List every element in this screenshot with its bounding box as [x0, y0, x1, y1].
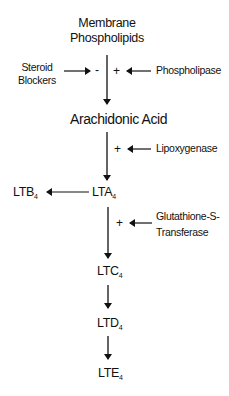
gst-line1: Glutathione-S- [156, 208, 220, 224]
node-ltd4: LTD4 [97, 316, 122, 335]
lta4-base: LTA [92, 185, 112, 199]
activate-sign-lipoxygenase: + [114, 143, 121, 155]
ltd4-sub: 4 [119, 324, 123, 331]
ltc4-sub: 4 [119, 272, 123, 279]
modifier-lipoxygenase: Lipoxygenase [156, 142, 217, 155]
inhibit-sign: - [95, 64, 99, 76]
modifier-steroid-blockers: Steroid Blockers [14, 61, 60, 87]
node-ltc4: LTC4 [97, 264, 122, 283]
node-lte4: LTE4 [98, 366, 123, 385]
steroid-line2: Blockers [14, 74, 60, 87]
ltb4-base: LTB [13, 185, 34, 199]
modifier-phospholipase: Phospholipase [156, 64, 221, 77]
node-membrane-line1: Membrane [62, 16, 152, 31]
node-membrane-line2: Phospholipids [62, 31, 152, 46]
lta4-sub: 4 [112, 193, 116, 200]
activate-sign-gst: + [116, 217, 123, 229]
node-membrane-phospholipids: Membrane Phospholipids [62, 16, 152, 46]
gst-line2: Transferase [156, 224, 220, 240]
node-lta4: LTA4 [92, 185, 116, 204]
lte4-sub: 4 [119, 374, 123, 381]
node-ltb4: LTB4 [13, 185, 38, 204]
ltc4-base: LTC [97, 264, 119, 278]
ltb4-sub: 4 [34, 193, 38, 200]
activate-sign-phospholipase: + [113, 65, 120, 77]
lte4-base: LTE [98, 366, 119, 380]
node-arachidonic-acid: Arachidonic Acid [70, 111, 167, 127]
ltd4-base: LTD [97, 316, 119, 330]
steroid-line1: Steroid [14, 61, 60, 74]
modifier-glutathione-s-transferase: Glutathione-S- Transferase [156, 208, 220, 240]
